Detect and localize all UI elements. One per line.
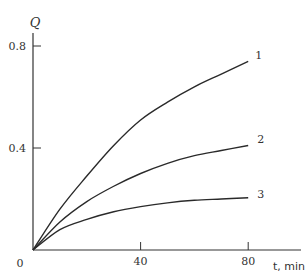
- curves: [33, 61, 248, 250]
- y-tick-label: 0.8: [9, 40, 27, 53]
- curve-label-1: 1: [255, 49, 262, 62]
- curve-2: [33, 145, 248, 250]
- curve-1: [33, 61, 248, 250]
- x-tick-label: 40: [134, 255, 148, 268]
- curve-label-3: 3: [257, 188, 264, 201]
- y-tick-label: 0.4: [9, 142, 27, 155]
- chart: 0.40.840800Qt, min123: [0, 0, 308, 279]
- curve-label-2: 2: [257, 133, 264, 146]
- origin-label: 0: [17, 257, 24, 270]
- y-axis-label: Q: [30, 15, 41, 30]
- x-tick-label: 80: [241, 255, 255, 268]
- x-axis-label: t, min: [273, 260, 305, 273]
